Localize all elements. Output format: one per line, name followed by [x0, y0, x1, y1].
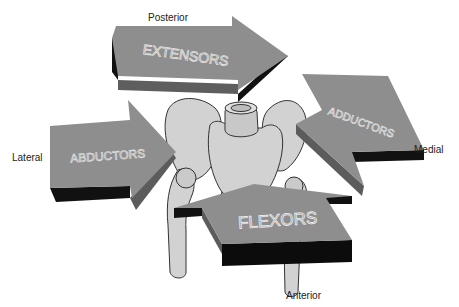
- direction-label-medial: Medial: [414, 144, 443, 155]
- direction-label-anterior: Anterior: [286, 290, 321, 301]
- left-femoral-head: [176, 168, 196, 188]
- arrow-adductors: ADDUCTORS: [296, 74, 424, 196]
- arrow-flexors: FLEXORS: [174, 184, 352, 266]
- direction-label-lateral: Lateral: [12, 152, 43, 163]
- arrow-abductors: ABDUCTORS: [50, 100, 176, 210]
- diagram-canvas: EXTENSORS ABDUCTORS ADDUCTORS FLEXORS: [0, 0, 459, 307]
- direction-label-posterior: Posterior: [148, 12, 188, 23]
- arrow-extensors: EXTENSORS: [112, 16, 288, 102]
- pelvis-muscle-diagram: EXTENSORS ABDUCTORS ADDUCTORS FLEXORS Po…: [0, 0, 459, 307]
